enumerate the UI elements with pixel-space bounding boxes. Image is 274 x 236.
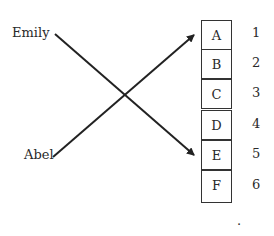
number-6: 6 [252,177,260,192]
box-b: B [201,49,232,79]
label-emily: Emily [12,25,49,40]
box-f: F [201,170,232,203]
number-1: 1 [252,25,260,40]
label-abel: Abel [24,147,54,162]
box-d: D [201,110,232,140]
box-a: A [201,20,232,50]
arrow-abel-to-a [53,35,194,157]
number-2: 2 [252,55,260,70]
box-c: C [201,79,232,109]
footer-dot: . [237,213,241,228]
number-3: 3 [252,85,260,100]
box-e: E [201,140,232,170]
number-5: 5 [252,146,260,161]
number-4: 4 [252,116,260,131]
